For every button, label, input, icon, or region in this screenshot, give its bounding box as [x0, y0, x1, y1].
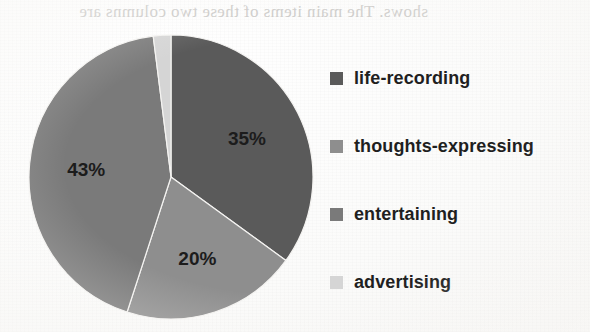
pie-chart: 35%20%43%2% [28, 34, 314, 320]
legend-swatch-icon [330, 140, 343, 153]
legend-item-label: thoughts-expressing [354, 136, 534, 157]
pie-value-label: 35% [228, 128, 266, 149]
legend-item: advertising [330, 248, 580, 316]
legend-item-label: advertising [354, 272, 451, 293]
legend-item: life-recording [330, 44, 580, 112]
legend-swatch-icon [330, 276, 343, 289]
legend-swatch-icon [330, 72, 343, 85]
legend-swatch-icon [330, 208, 343, 221]
legend-item: thoughts-expressing [330, 112, 580, 180]
legend-item-label: life-recording [354, 68, 470, 89]
legend-item: entertaining [330, 180, 580, 248]
chart-legend: life-recordingthoughts-expressingenterta… [330, 44, 580, 316]
legend-item-label: entertaining [354, 204, 458, 225]
bleed-through-text: shows. The main items of these two colum… [8, 2, 428, 22]
pie-value-label: 20% [178, 248, 216, 269]
pie-chart-svg: 35%20%43%2% [28, 34, 314, 320]
pie-value-label: 43% [67, 159, 105, 180]
